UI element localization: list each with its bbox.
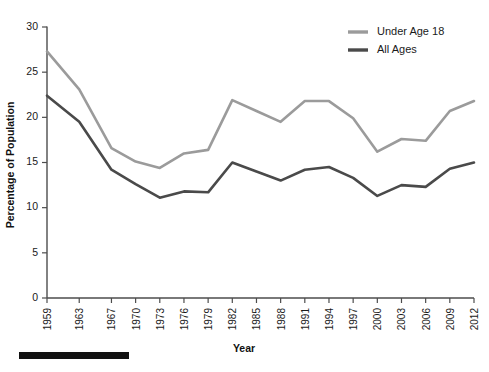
x-tick-label: 1988 — [276, 308, 287, 331]
x-tick-label: 2000 — [372, 308, 383, 331]
y-tick-label: 10 — [26, 200, 38, 212]
chart-canvas: 051015202530 195919631967197019731976197… — [0, 0, 489, 372]
x-axis-title: Year — [233, 342, 255, 354]
x-tick-label: 1970 — [131, 308, 142, 331]
y-axis-title: Percentage of Population — [4, 102, 16, 229]
x-axis-ticks: 1959196319671970197319761979198219851988… — [42, 298, 480, 330]
x-tick-label: 1963 — [74, 308, 85, 331]
x-tick-label: 2006 — [421, 308, 432, 331]
x-tick-label: 2012 — [469, 308, 480, 331]
x-tick-label: 1994 — [324, 308, 335, 331]
x-tick-label: 1991 — [300, 308, 311, 331]
x-tick-label: 1959 — [42, 308, 53, 331]
y-tick-label: 20 — [26, 110, 38, 122]
y-tick-label: 0 — [32, 291, 38, 303]
chart-legend: Under Age 18All Ages — [348, 25, 444, 55]
y-axis-ticks: 051015202530 — [26, 20, 47, 303]
x-tick-label: 1979 — [203, 308, 214, 331]
y-tick-label: 5 — [32, 246, 38, 258]
x-tick-label: 1997 — [348, 308, 359, 331]
x-tick-label: 1976 — [179, 308, 190, 331]
poverty-rate-line-chart: 051015202530 195919631967197019731976197… — [0, 0, 489, 372]
legend-label: All Ages — [377, 43, 417, 55]
x-tick-label: 2003 — [396, 308, 407, 331]
x-tick-label: 1985 — [251, 308, 262, 331]
x-tick-label: 1982 — [227, 308, 238, 331]
y-tick-label: 30 — [26, 20, 38, 32]
series-line-under-age-18 — [47, 51, 474, 168]
x-tick-label: 1973 — [155, 308, 166, 331]
footer-rule-bar — [19, 352, 129, 359]
data-series-group — [47, 51, 474, 197]
x-tick-label: 2009 — [445, 308, 456, 331]
y-tick-label: 15 — [26, 155, 38, 167]
x-tick-label: 1967 — [106, 308, 117, 331]
y-tick-label: 25 — [26, 65, 38, 77]
legend-label: Under Age 18 — [377, 25, 444, 37]
